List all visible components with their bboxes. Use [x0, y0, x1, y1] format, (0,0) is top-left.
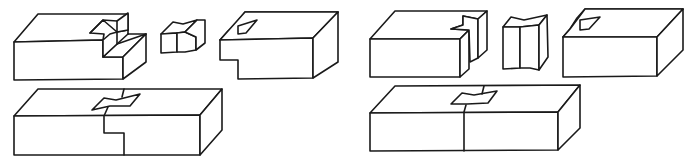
right-butterfly-key — [503, 15, 548, 70]
left-mating-block — [220, 12, 338, 79]
left-butterfly-key — [161, 20, 205, 53]
right-mating-block — [563, 9, 683, 77]
left-assembled-joint — [14, 89, 222, 155]
right-panel — [370, 9, 683, 151]
joint-diagram-figure — [0, 0, 694, 168]
right-block-with-notch — [370, 11, 487, 77]
right-assembled-joint — [370, 85, 580, 151]
left-block-with-notch — [14, 13, 146, 80]
left-panel — [14, 12, 338, 155]
